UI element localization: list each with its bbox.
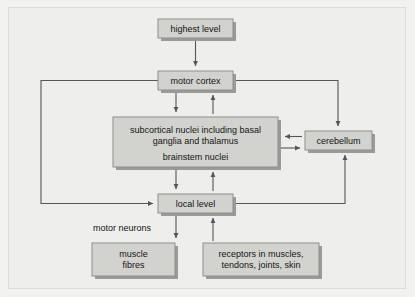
highest-level-label: highest level xyxy=(170,24,220,34)
receptors-label-line1: receptors in muscles, xyxy=(218,249,303,259)
muscle-fibres-label-line1: muscle xyxy=(119,249,148,259)
node-subcortical-nuclei[interactable]: subcortical nuclei including basal gangl… xyxy=(113,117,281,170)
node-cerebellum[interactable]: cerebellum xyxy=(305,131,375,153)
muscle-fibres-label-line2: fibres xyxy=(122,260,145,270)
motor-cortex-label: motor cortex xyxy=(170,76,221,86)
figure-container: highest level motor cortex subcortical n… xyxy=(0,0,415,297)
motor-control-hierarchy-diagram: highest level motor cortex subcortical n… xyxy=(0,0,415,297)
node-receptors[interactable]: receptors in muscles, tendons, joints, s… xyxy=(203,243,322,279)
motor-neurons-label: motor neurons xyxy=(93,223,152,233)
node-highest-level[interactable]: highest level xyxy=(158,19,236,41)
node-muscle-fibres[interactable]: muscle fibres xyxy=(92,243,178,279)
receptors-label-line2: tendons, joints, skin xyxy=(221,260,300,270)
subcortical-label-line2: ganglia and thalamus xyxy=(153,136,239,146)
subcortical-label-line3: brainstem nuclei xyxy=(163,152,229,162)
cerebellum-label: cerebellum xyxy=(316,136,360,146)
local-level-label: local level xyxy=(176,199,216,209)
node-local-level[interactable]: local level xyxy=(158,194,236,216)
node-motor-cortex[interactable]: motor cortex xyxy=(158,71,236,93)
subcortical-label-line1: subcortical nuclei including basal xyxy=(130,125,261,135)
